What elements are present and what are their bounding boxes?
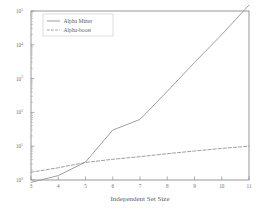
x-tick-group: 11 (247, 177, 252, 190)
y-tick-label: 104 (16, 42, 23, 48)
x-tick-group: 4 (57, 177, 60, 190)
y-tick-exponent: 3 (21, 75, 23, 79)
x-tick-group: 6 (111, 177, 114, 190)
plot-frame (31, 11, 249, 180)
x-tick-label: 9 (193, 183, 196, 189)
chart-figure: 100 101 102 103 104 105 (0, 0, 268, 215)
y-tick-exponent: 5 (21, 8, 23, 12)
y-tick-group: 105 (16, 8, 35, 14)
x-axis: 3 4 5 6 7 8 9 (30, 177, 252, 190)
x-tick-group: 10 (219, 177, 225, 190)
x-tick-label: 6 (111, 183, 114, 189)
x-tick-label: 4 (57, 183, 60, 189)
y-tick-exponent: 2 (21, 109, 23, 113)
line-chart: 100 101 102 103 104 105 (0, 0, 268, 215)
y-tick-exponent: 0 (21, 177, 23, 181)
x-tick-label: 5 (84, 183, 87, 189)
y-axis: 100 101 102 103 104 105 (16, 8, 35, 183)
x-tick-group: 9 (193, 177, 196, 190)
y-tick-group: 104 (16, 42, 35, 48)
y-tick-label: 101 (16, 143, 23, 149)
y-tick-exponent: 4 (21, 42, 23, 46)
y-tick-label: 100 (16, 177, 23, 183)
x-tick-label: 11 (247, 183, 252, 189)
legend-label-alpha-miner: Alpha Miner (64, 18, 93, 24)
series-line-alpha-boost (31, 146, 249, 172)
legend-label-alpha-boost: Alpha-boost (64, 27, 92, 33)
x-tick-label: 3 (30, 183, 33, 189)
y-tick-group: 101 (16, 143, 35, 149)
y-tick-group: 103 (16, 75, 35, 81)
y-tick-label: 103 (16, 75, 23, 81)
x-tick-label: 8 (166, 183, 169, 189)
x-tick-label: 7 (139, 183, 142, 189)
y-tick-exponent: 1 (21, 143, 23, 147)
x-tick-label: 10 (219, 183, 225, 189)
y-tick-label: 105 (16, 8, 23, 14)
x-axis-title: Independent Set Size (110, 195, 169, 203)
y-tick-group: 102 (16, 109, 35, 115)
x-tick-group: 5 (84, 177, 87, 190)
x-tick-group: 8 (166, 177, 169, 190)
x-tick-group: 7 (139, 177, 142, 190)
y-tick-label: 102 (16, 109, 23, 115)
legend: Alpha Miner Alpha-boost (43, 14, 113, 36)
